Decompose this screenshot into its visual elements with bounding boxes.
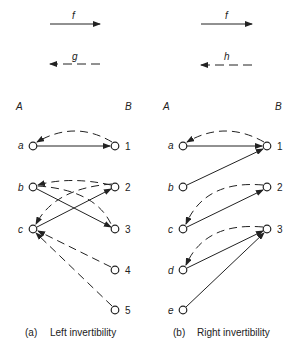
- node-label-d: d: [168, 265, 174, 276]
- node-label-3: 3: [125, 224, 131, 235]
- f-edge-d-3: [187, 231, 263, 268]
- node-label-2: 2: [125, 182, 131, 193]
- node-label-e: e: [168, 305, 174, 316]
- f-edge-b-1: [187, 149, 263, 185]
- node-label-4: 4: [125, 265, 131, 276]
- caption-tag-b: (b): [173, 327, 185, 338]
- node-label-b: b: [18, 182, 24, 193]
- panel-left-invertibility: A B a b c 1 2 3 4 5 (a) Left invertibili…: [15, 101, 132, 338]
- h-edge-3-d: [186, 226, 263, 265]
- node-1: [111, 142, 119, 150]
- node-3: [263, 225, 271, 233]
- invertibility-diagram: f g f h A B a b c 1 2 3 4 5: [0, 0, 300, 352]
- node-a: [179, 142, 187, 150]
- node-label-1: 1: [125, 141, 131, 152]
- node-c: [29, 225, 37, 233]
- node-label-5: 5: [125, 305, 131, 316]
- node-1: [263, 142, 271, 150]
- node-label-b: b: [168, 182, 174, 193]
- f-edge-e-3: [186, 233, 264, 307]
- node-label-c: c: [168, 224, 173, 235]
- g-edge-b-dash-3: [38, 186, 111, 224]
- legend-left: f g: [50, 10, 100, 64]
- f-legend-label: f: [72, 10, 76, 21]
- node-label-1: 1: [277, 141, 283, 152]
- node-b: [29, 183, 37, 191]
- node-label-c: c: [18, 224, 23, 235]
- set-a-label: A: [162, 101, 170, 112]
- node-label-a: a: [18, 140, 24, 151]
- caption-left: Left invertibility: [50, 327, 116, 338]
- node-5: [111, 306, 119, 314]
- set-b-label: B: [275, 101, 282, 112]
- caption-right: Right invertibility: [197, 327, 270, 338]
- node-e: [179, 306, 187, 314]
- panel-right-invertibility: A B a b c d e 1 2 3 (b) Right invertibil…: [162, 101, 283, 338]
- node-label-3: 3: [277, 224, 283, 235]
- set-a-label: A: [15, 101, 23, 112]
- node-4: [111, 266, 119, 274]
- h-edge-2-c: [186, 184, 263, 224]
- f-legend-label: f: [225, 10, 229, 21]
- g-edge-4-c: [38, 231, 111, 267]
- g-edge-5-c: [36, 233, 112, 306]
- set-b-label: B: [125, 101, 132, 112]
- node-d: [179, 266, 187, 274]
- node-b: [179, 183, 187, 191]
- f-edge-c-2: [187, 190, 263, 227]
- node-2: [111, 183, 119, 191]
- node-label-a: a: [168, 140, 174, 151]
- node-a: [29, 142, 37, 150]
- node-label-2: 2: [277, 182, 283, 193]
- caption-tag-a: (a): [25, 327, 37, 338]
- h-edge-1-a: [187, 131, 264, 142]
- node-c: [179, 225, 187, 233]
- g-legend-label: g: [72, 51, 78, 62]
- legend-right: f h: [201, 10, 252, 65]
- h-legend-label: h: [224, 51, 230, 62]
- node-2: [263, 183, 271, 191]
- g-edge-1-a: [37, 131, 112, 142]
- node-3: [111, 225, 119, 233]
